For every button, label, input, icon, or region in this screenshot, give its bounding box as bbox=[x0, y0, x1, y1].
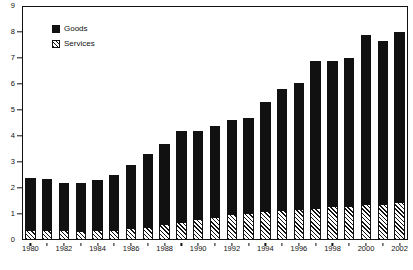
legend-item-services: Services bbox=[52, 39, 95, 48]
x-tick-label: 1994 bbox=[257, 245, 274, 253]
legend-swatch-icon bbox=[52, 25, 60, 33]
chart-legend: GoodsServices bbox=[52, 24, 95, 48]
y-tick-label: 1 bbox=[11, 210, 15, 218]
legend-item-goods: Goods bbox=[52, 24, 95, 33]
bar-segment-goods bbox=[227, 120, 237, 214]
bar-group bbox=[344, 58, 354, 240]
x-tick-mark bbox=[282, 243, 283, 246]
bar-segment-services bbox=[327, 206, 337, 240]
x-tick-label: 1986 bbox=[123, 245, 140, 253]
y-axis: 0123456789 bbox=[0, 0, 22, 246]
x-tick-label: 1990 bbox=[190, 245, 207, 253]
y-tick-label: 5 bbox=[11, 106, 15, 114]
y-tick-label: 6 bbox=[11, 80, 15, 88]
y-tick-label: 9 bbox=[11, 2, 15, 10]
x-tick-label: 1984 bbox=[89, 245, 106, 253]
x-tick-label: 1998 bbox=[324, 245, 341, 253]
bar-group bbox=[92, 180, 102, 240]
bar-segment-services bbox=[109, 230, 119, 240]
bar-group bbox=[210, 126, 220, 240]
bar-segment-services bbox=[25, 230, 35, 240]
bar-segment-goods bbox=[260, 102, 270, 211]
bar-segment-goods bbox=[344, 58, 354, 206]
bar-group bbox=[176, 131, 186, 240]
bar-group bbox=[76, 183, 86, 240]
x-tick-mark bbox=[181, 243, 182, 246]
bar-segment-goods bbox=[126, 165, 136, 229]
bar-group bbox=[159, 144, 169, 240]
bar-group bbox=[42, 179, 52, 240]
bar-group bbox=[227, 120, 237, 240]
bar-segment-goods bbox=[294, 83, 304, 209]
x-tick-label: 2002 bbox=[391, 245, 408, 253]
bar-segment-services bbox=[277, 210, 287, 240]
bar-segment-goods bbox=[176, 131, 186, 222]
bar-group bbox=[277, 89, 287, 240]
y-tick-label: 7 bbox=[11, 54, 15, 62]
legend-label: Services bbox=[64, 39, 95, 48]
bar-segment-goods bbox=[42, 179, 52, 230]
bar-group bbox=[327, 61, 337, 240]
x-axis: 1980198219841986198819901992199419961998… bbox=[22, 243, 408, 259]
bar-segment-services bbox=[92, 230, 102, 240]
bar-segment-services bbox=[310, 208, 320, 241]
bar-segment-services bbox=[344, 206, 354, 240]
x-tick-label: 1988 bbox=[156, 245, 173, 253]
x-tick-mark bbox=[248, 243, 249, 246]
bar-group bbox=[193, 131, 203, 240]
bar-segment-goods bbox=[310, 61, 320, 208]
legend-label: Goods bbox=[64, 24, 88, 33]
bar-segment-services bbox=[143, 227, 153, 240]
bar-chart: 0123456789 19801982198419861988199019921… bbox=[0, 0, 413, 270]
bar-segment-goods bbox=[210, 126, 220, 217]
bar-segment-services bbox=[361, 204, 371, 240]
bar-group bbox=[25, 178, 35, 240]
bar-segment-goods bbox=[394, 32, 404, 202]
bar-segment-services bbox=[159, 224, 169, 240]
bar-group bbox=[143, 154, 153, 240]
x-tick-mark bbox=[349, 243, 350, 246]
y-tick-label: 2 bbox=[11, 184, 15, 192]
bar-group bbox=[394, 32, 404, 240]
bar-group bbox=[378, 41, 388, 240]
bar-group bbox=[294, 83, 304, 240]
bar-group bbox=[361, 35, 371, 240]
bar-segment-services bbox=[294, 209, 304, 240]
x-tick-mark bbox=[382, 243, 383, 246]
bar-segment-goods bbox=[92, 180, 102, 229]
bar-segment-goods bbox=[243, 118, 253, 213]
y-tick-label: 3 bbox=[11, 158, 15, 166]
bar-segment-goods bbox=[327, 61, 337, 207]
bar-segment-goods bbox=[143, 154, 153, 227]
bar-segment-goods bbox=[76, 183, 86, 231]
bar-group bbox=[243, 118, 253, 240]
bar-segment-goods bbox=[193, 131, 203, 219]
bar-segment-services bbox=[126, 228, 136, 240]
x-tick-label: 1992 bbox=[223, 245, 240, 253]
bar-segment-services bbox=[176, 222, 186, 240]
bar-segment-services bbox=[59, 230, 69, 240]
x-tick-label: 2000 bbox=[358, 245, 375, 253]
y-tick-label: 4 bbox=[11, 132, 15, 140]
x-tick-mark bbox=[147, 243, 148, 246]
y-tick-label: 8 bbox=[11, 28, 15, 36]
bar-segment-services bbox=[193, 219, 203, 240]
bar-group bbox=[126, 165, 136, 240]
bar-group bbox=[109, 175, 119, 240]
x-tick-label: 1982 bbox=[56, 245, 73, 253]
bar-segment-goods bbox=[277, 89, 287, 210]
x-tick-mark bbox=[114, 243, 115, 246]
bar-segment-services bbox=[210, 217, 220, 240]
x-tick-label: 1996 bbox=[291, 245, 308, 253]
bar-segment-services bbox=[394, 202, 404, 240]
x-tick-mark bbox=[47, 243, 48, 246]
x-tick-mark bbox=[315, 243, 316, 246]
bar-segment-goods bbox=[109, 175, 119, 230]
bar-segment-services bbox=[378, 204, 388, 240]
x-tick-mark bbox=[80, 243, 81, 246]
bar-segment-services bbox=[227, 214, 237, 240]
x-tick-mark bbox=[214, 243, 215, 246]
bar-segment-goods bbox=[159, 144, 169, 225]
bar-segment-services bbox=[260, 211, 270, 240]
bar-segment-goods bbox=[59, 183, 69, 230]
